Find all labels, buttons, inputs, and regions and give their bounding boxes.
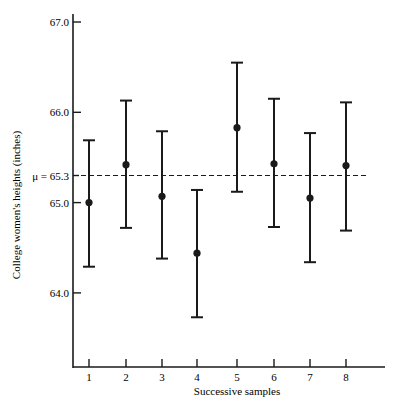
x-tick-label: 3	[159, 371, 165, 383]
x-tick-label: 4	[194, 371, 200, 383]
y-tick-label: 64.0	[50, 287, 70, 299]
error-bar-sample-1	[83, 140, 95, 266]
y-tick-label: 65.0	[50, 197, 70, 209]
x-tick-label: 1	[86, 371, 92, 383]
y-axis-title: College women's heights (inches)	[10, 131, 23, 280]
error-bar-sample-5	[231, 63, 243, 192]
x-ticks: 12345678	[86, 359, 349, 383]
error-bar-sample-3	[156, 131, 168, 258]
y-ticks: 67.066.065.064.0	[50, 16, 81, 299]
mean-point	[158, 193, 165, 200]
error-bar-sample-6	[268, 99, 280, 227]
mu-label: μ = 65.3	[32, 170, 69, 182]
mean-point	[306, 194, 313, 201]
mean-point	[193, 250, 200, 257]
x-tick-label: 2	[123, 371, 129, 383]
error-bars	[83, 63, 352, 318]
error-bar-chart: 67.066.065.064.0 12345678 μ = 65.3 Succe…	[0, 0, 395, 405]
mean-point	[342, 162, 349, 169]
x-tick-label: 8	[343, 371, 349, 383]
error-bar-sample-7	[304, 133, 316, 262]
x-tick-label: 5	[234, 371, 240, 383]
mu-reference-line: μ = 65.3	[32, 170, 368, 182]
x-tick-label: 7	[307, 371, 313, 383]
error-bar-sample-8	[340, 102, 352, 230]
error-bar-sample-2	[120, 101, 132, 228]
axes	[73, 14, 385, 368]
mean-point	[85, 199, 92, 206]
mean-point	[122, 161, 129, 168]
mean-point	[233, 124, 240, 131]
x-tick-label: 6	[271, 371, 277, 383]
error-bar-sample-4	[191, 190, 203, 317]
y-tick-label: 66.0	[50, 106, 70, 118]
x-axis-title: Successive samples	[194, 385, 280, 397]
y-tick-label: 67.0	[50, 16, 70, 28]
mean-point	[270, 160, 277, 167]
